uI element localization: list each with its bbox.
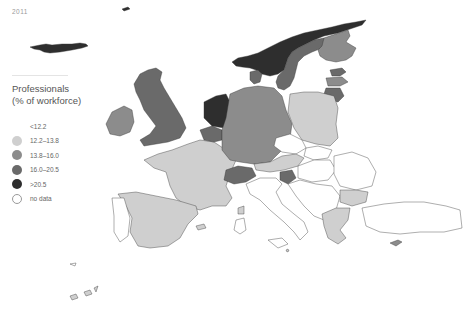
region-hungary xyxy=(298,160,336,182)
legend-item-13-16: 13.8–16.0 xyxy=(12,148,59,163)
legend: <12.2 12.2–13.8 13.8–16.0 16.0–20.5 >20.… xyxy=(12,119,59,206)
legend-swatch-icon xyxy=(12,165,22,175)
legend-label: >20.5 xyxy=(30,181,46,188)
region-svalbard xyxy=(122,7,130,11)
region-cyprus xyxy=(390,240,402,246)
legend-label: <12.2 xyxy=(30,123,46,130)
legend-item-gt20: >20.5 xyxy=(12,177,59,192)
region-madeira xyxy=(70,263,76,266)
legend-swatch-icon xyxy=(12,194,22,204)
region-malta xyxy=(286,249,289,252)
region-greece xyxy=(322,208,350,244)
region-slovakia xyxy=(304,146,332,160)
region-sardinia xyxy=(234,218,246,234)
year-label: 2011 xyxy=(12,8,28,15)
legend-item-no-data: no data xyxy=(12,192,59,207)
legend-label: 12.2–13.8 xyxy=(30,137,59,144)
region-estonia xyxy=(330,68,346,76)
legend-label: 13.8–16.0 xyxy=(30,152,59,159)
region-balearic-islands xyxy=(196,224,206,230)
region-turkey xyxy=(362,202,462,234)
region-canary-islands xyxy=(70,286,98,300)
legend-swatch-icon xyxy=(12,150,22,160)
legend-swatch-icon xyxy=(12,136,22,146)
region-germany xyxy=(222,86,292,164)
region-bulgaria xyxy=(340,190,368,206)
region-corsica xyxy=(238,206,244,214)
region-denmark xyxy=(250,70,262,84)
europe-choropleth-map xyxy=(0,0,470,321)
legend-item-16-20: 16.0–20.5 xyxy=(12,163,59,178)
legend-title-line1: Professionals xyxy=(12,83,81,95)
region-romania xyxy=(334,152,376,190)
region-belgium xyxy=(200,126,222,142)
region-ireland xyxy=(106,106,134,136)
legend-swatch-icon xyxy=(12,179,22,189)
legend-title-line2: (% of workforce) xyxy=(12,95,81,107)
region-sicily xyxy=(268,238,288,248)
legend-item-12-13: 12.2–13.8 xyxy=(12,134,59,149)
region-united-kingdom xyxy=(134,68,186,146)
legend-item-lt12: <12.2 xyxy=(12,119,59,134)
region-latvia xyxy=(326,77,348,86)
region-iceland xyxy=(30,43,88,53)
legend-label: 16.0–20.5 xyxy=(30,166,59,173)
legend-title: Professionals (% of workforce) xyxy=(12,83,81,107)
legend-divider xyxy=(12,75,68,76)
legend-swatch-icon xyxy=(12,121,22,131)
legend-label: no data xyxy=(30,195,52,202)
region-slovenia xyxy=(280,170,296,184)
